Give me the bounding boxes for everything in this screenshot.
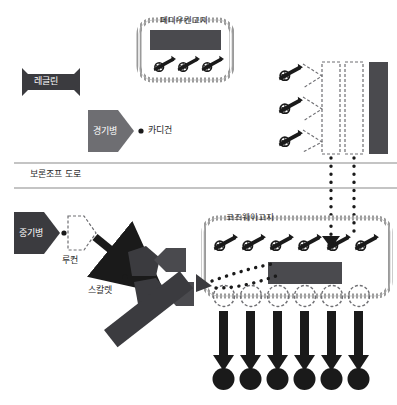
cannon-icon (202, 56, 224, 72)
cannon-icon (355, 234, 379, 251)
map-canvas (0, 0, 397, 405)
charge-arrow (240, 311, 262, 390)
scarlett-dotted-path (212, 264, 276, 288)
label-raglan: 레글린 (34, 77, 58, 86)
cannon-icon (279, 130, 303, 147)
dotted-advance-tracks (322, 158, 354, 248)
causeway-redoubt-enclosure (204, 218, 390, 307)
charge-arrow (348, 311, 370, 390)
cannon-icon (154, 56, 176, 72)
battle-map: 페디우킨고지 레글린 경기병 카디건 보론조프 도로 중기병 루컨 스칼렛 더랴… (0, 0, 397, 405)
right-solid-bar (369, 62, 388, 154)
causeway-redoubt-bar (268, 262, 342, 284)
dashed-column-1 (322, 62, 340, 154)
unit-marker-icon (240, 368, 262, 390)
bullet-dot-icon (61, 230, 66, 235)
cannon-icon (214, 234, 238, 251)
charge-arrow (321, 311, 343, 390)
unit-marker-icon (154, 248, 186, 272)
cannon-icon (242, 234, 266, 251)
charge-arrow (294, 311, 316, 390)
unit-marker-icon (213, 368, 235, 390)
cannon-icon (178, 56, 200, 72)
unit-marker-icon (348, 368, 370, 390)
label-causeway-heights: 코즈웨이고지 (226, 213, 274, 222)
unit-marker-icon (294, 368, 316, 390)
label-scarlett: 스칼렛 (88, 286, 112, 295)
unit-marker-icon (321, 368, 343, 390)
cannon-icon (298, 234, 322, 251)
label-light-brigade: 경기병 (93, 127, 117, 136)
right-battery (279, 62, 388, 154)
upper-redoubt-enclosure (139, 20, 232, 80)
bullet-dot-icon (138, 128, 143, 133)
dashed-column-2 (345, 62, 363, 154)
cannon-icon (279, 97, 303, 114)
cannon-icon (270, 234, 294, 251)
charge-arrow (213, 311, 235, 390)
charge-arrows (213, 311, 370, 390)
label-pediukin-heights: 페디우킨고지 (160, 16, 208, 25)
unit-marker-icon (267, 368, 289, 390)
cannon-icon (279, 64, 303, 81)
lucan-marker (68, 216, 96, 250)
bullet-dot-icon (122, 274, 127, 279)
label-cardigan: 카디건 (148, 126, 172, 135)
heavy-charge-arrow (95, 237, 122, 259)
charge-arrow (267, 311, 289, 390)
label-lucan: 루컨 (62, 256, 78, 265)
label-vorontsov-road: 보론조프 도로 (30, 170, 81, 179)
label-heavy-brigade: 중기병 (19, 229, 43, 238)
upper-redoubt-bar (150, 30, 221, 50)
